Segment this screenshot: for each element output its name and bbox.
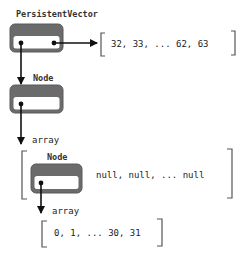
persistent-vector-diagram: PersistentVector 32, 33, ... 62, 63 Node… xyxy=(0,0,243,253)
root-node-box xyxy=(10,85,63,113)
root-node-label: Node xyxy=(33,73,53,83)
persistent-vector-label: PersistentVector xyxy=(16,9,98,19)
leaf-array-label: array xyxy=(52,206,80,216)
leaf-array-values: 0, 1, ... 30, 31 xyxy=(54,228,141,238)
child-node-label: Node xyxy=(47,152,67,162)
root-node-array-label: array xyxy=(32,135,60,145)
child-node-box xyxy=(31,164,82,193)
root-array-rest-values: null, null, ... null xyxy=(96,170,204,180)
persistent-vector-box xyxy=(10,24,63,52)
tail-array-values: 32, 33, ... 62, 63 xyxy=(111,39,209,49)
